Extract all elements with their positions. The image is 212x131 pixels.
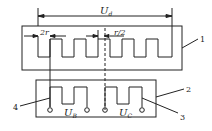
lower-plate: [36, 80, 156, 117]
arrow-left-icon: [38, 15, 44, 18]
label-r-half: r/2: [114, 28, 126, 37]
leader-1: [182, 39, 198, 48]
label-ub: UB: [64, 107, 77, 119]
terminal-icon: [85, 108, 90, 113]
label-2r: 2r: [39, 28, 50, 37]
callout-2: 2: [186, 85, 191, 94]
terminal-icon: [140, 108, 145, 113]
lower-left-electrode: [50, 87, 87, 107]
label-ud: Ud: [100, 5, 112, 17]
leader-4: [20, 98, 50, 106]
callout-4: 4: [13, 103, 18, 112]
leader-3: [142, 98, 178, 113]
lower-right-electrode: [105, 87, 142, 107]
callout-3: 3: [180, 113, 185, 122]
label-uc: UC: [119, 107, 132, 119]
callout-1: 1: [200, 35, 205, 44]
arrow-right-icon: [166, 15, 172, 18]
leader-2: [156, 89, 184, 97]
terminal-icon: [48, 108, 53, 113]
electrode-diagram: Ud 2r r/2 UB UC 1 2 3 4: [0, 0, 212, 131]
